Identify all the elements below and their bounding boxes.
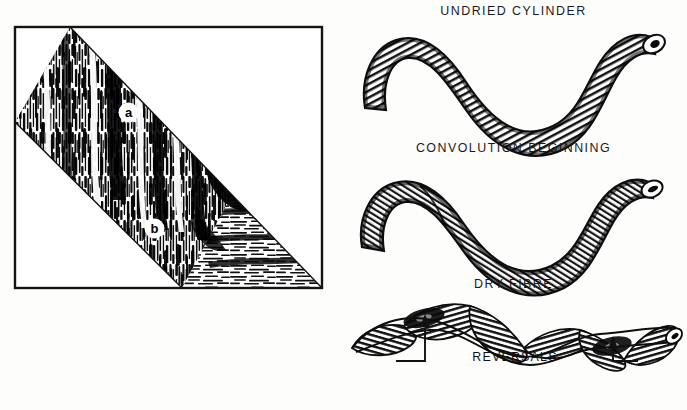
caption-dry-fibre: DRY FIBRE xyxy=(354,276,673,291)
diagram-convolution-beginning xyxy=(350,160,680,315)
caption-convolution-beginning: CONVOLUTION BEGINNING xyxy=(354,140,673,155)
left-panel-photomicrograph xyxy=(10,20,340,300)
reversals-label: REVERSALS xyxy=(409,349,621,364)
fibre-label-b: b xyxy=(146,220,163,237)
fibre-label-a: a xyxy=(120,104,137,121)
caption-undried-cylinder: UNDRIED CYLINDER xyxy=(354,3,673,18)
figure-root: UNDRIED CYLINDER CONVOLUTION BEGINNING D… xyxy=(0,0,687,410)
